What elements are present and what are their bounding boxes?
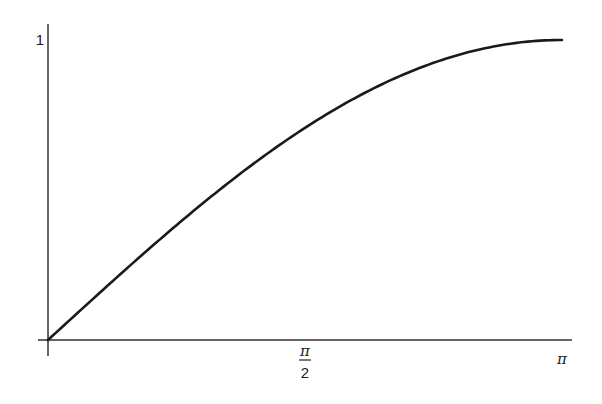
x-tick-half-pi-denominator: 2 xyxy=(301,364,309,381)
chart: 1 π 2 π xyxy=(0,0,602,404)
y-tick-label-1: 1 xyxy=(36,31,44,48)
sine-half-curve xyxy=(48,40,562,340)
x-tick-label-pi: π xyxy=(556,350,568,368)
x-tick-label-half-pi: π 2 xyxy=(299,342,311,381)
x-tick-half-pi-numerator: π xyxy=(299,342,311,360)
